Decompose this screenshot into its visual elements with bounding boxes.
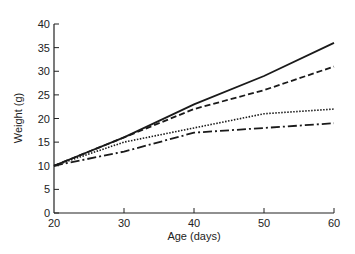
series-line-solid (54, 43, 334, 166)
series-line-dash-dot (54, 123, 334, 166)
y-tick-label: 20 (38, 113, 50, 125)
y-tick-label: 15 (38, 136, 50, 148)
x-tick-label: 40 (188, 217, 200, 229)
x-axis-ticks: 2030405060 (48, 208, 340, 229)
x-tick-label: 30 (118, 217, 130, 229)
series-line-dashed (54, 67, 334, 166)
y-tick-label: 35 (38, 42, 50, 54)
y-tick-label: 10 (38, 160, 50, 172)
y-axis-label: Weight (g) (12, 93, 24, 144)
y-tick-label: 5 (44, 183, 50, 195)
line-chart: 0510152025303540 2030405060 Age (days) W… (0, 0, 355, 254)
x-axis-label: Age (days) (167, 230, 220, 242)
y-tick-label: 25 (38, 89, 50, 101)
x-tick-label: 20 (48, 217, 60, 229)
series-lines (54, 43, 334, 166)
x-tick-label: 60 (328, 217, 340, 229)
x-tick-label: 50 (258, 217, 270, 229)
y-axis-ticks: 0510152025303540 (38, 18, 59, 219)
y-tick-label: 40 (38, 18, 50, 30)
y-tick-label: 30 (38, 65, 50, 77)
